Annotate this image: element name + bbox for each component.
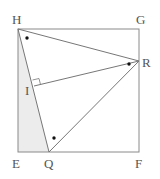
label-r: R: [142, 55, 151, 70]
angle-dot-q: [52, 136, 55, 139]
label-q: Q: [44, 156, 54, 171]
angle-dot-h: [25, 36, 28, 39]
segment-hr: [18, 29, 139, 61]
label-h: H: [12, 12, 21, 27]
label-i: I: [25, 83, 29, 98]
geometry-diagram: H G R I E Q F: [0, 0, 160, 179]
angle-dot-r: [127, 62, 130, 65]
label-e: E: [12, 156, 20, 171]
segment-ir: [34, 61, 139, 86]
label-f: F: [135, 156, 142, 171]
right-angle-marker: [33, 79, 41, 85]
segment-qr: [49, 61, 139, 152]
label-g: G: [136, 12, 145, 27]
